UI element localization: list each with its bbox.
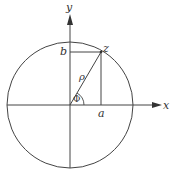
- x-axis-label: x: [163, 99, 170, 112]
- angle-label: Φ: [73, 94, 80, 104]
- y-axis-arrow-icon: [67, 14, 73, 25]
- point-z-marker: [100, 51, 103, 54]
- y-axis-label: y: [65, 1, 73, 14]
- point-z-label: z: [102, 42, 109, 55]
- complex-plane-diagram: y x z b a ρ Φ: [0, 0, 175, 177]
- imag-part-label: b: [60, 45, 67, 58]
- real-part-label: a: [98, 107, 105, 120]
- modulus-label: ρ: [78, 71, 85, 82]
- x-axis-arrow-icon: [152, 102, 162, 108]
